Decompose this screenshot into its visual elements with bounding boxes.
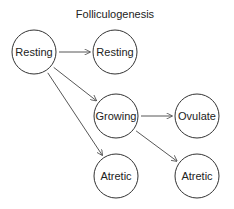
node-growing: Growing	[94, 94, 138, 138]
node-resting-a: Resting	[12, 30, 56, 74]
node-label: Growing	[96, 110, 137, 122]
node-label: Resting	[96, 46, 133, 58]
node-ovulate: Ovulate	[175, 94, 219, 138]
nodes: RestingRestingGrowingOvulateAtreticAtret…	[12, 30, 219, 198]
node-label: Atretic	[181, 170, 213, 182]
folliculogenesis-diagram: Folliculogenesis RestingRestingGrowingOv…	[0, 0, 234, 209]
node-atretic-a: Atretic	[94, 154, 138, 198]
node-resting-b: Resting	[93, 30, 137, 74]
node-label: Ovulate	[178, 110, 216, 122]
diagram-title: Folliculogenesis	[76, 8, 155, 20]
node-label: Atretic	[100, 170, 132, 182]
edge-resting_a-to-growing	[54, 67, 97, 100]
node-atretic-b: Atretic	[175, 154, 219, 198]
edge-growing-to-atretic_b	[136, 131, 177, 161]
node-label: Resting	[15, 46, 52, 58]
